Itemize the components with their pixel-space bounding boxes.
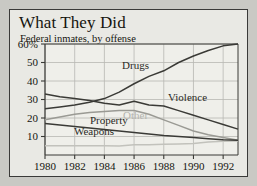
y-tick-label: 60% — [18, 38, 38, 50]
y-tick-label: 40 — [27, 75, 39, 87]
x-tick-label: 1990 — [182, 160, 205, 172]
x-tick-label: 1982 — [64, 160, 86, 172]
x-tick-label: 1988 — [153, 160, 176, 172]
x-tick-label: 1980 — [34, 160, 57, 172]
y-tick-label: 30 — [27, 93, 39, 105]
plot-area: 60%5040302010198019821984198619881990199… — [10, 10, 249, 178]
line-chart-svg: 60%5040302010198019821984198619881990199… — [10, 10, 249, 178]
y-tick-label: 20 — [27, 112, 39, 124]
x-tick-label: 1992 — [212, 160, 234, 172]
series-label-weapons: Weapons — [74, 125, 114, 137]
series-label-other: Other — [123, 109, 148, 121]
chart-figure: What They Did Federal inmates, by offens… — [0, 0, 257, 186]
chart-panel: What They Did Federal inmates, by offens… — [9, 9, 248, 177]
series-label-drugs: Drugs — [122, 59, 149, 71]
x-tick-label: 1984 — [93, 160, 116, 172]
x-tick-label: 1986 — [123, 160, 146, 172]
y-tick-label: 10 — [27, 130, 39, 142]
y-tick-label: 50 — [27, 56, 39, 68]
series-label-violence: Violence — [168, 91, 207, 103]
